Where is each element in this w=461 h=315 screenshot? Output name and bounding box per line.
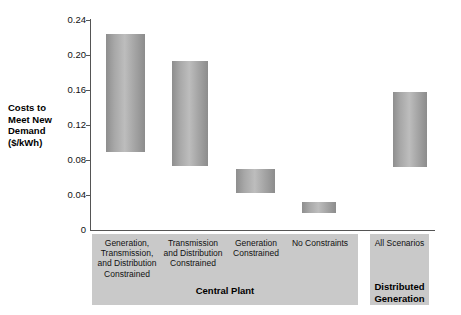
y-tick-mark-0.24: [86, 20, 91, 21]
group-title-central-plant: Central Plant: [92, 285, 358, 297]
x-axis-line: [90, 230, 435, 231]
y-tick-mark-0.04: [86, 195, 91, 196]
y-tick-label: 0: [48, 225, 86, 235]
group-title-line-2: Generation: [370, 293, 429, 305]
category-label-no-constraints: No Constraints: [288, 238, 352, 248]
cat-line-1: Generation: [225, 238, 287, 248]
y-tick-0.20: 0.20: [38, 50, 86, 60]
bar-no-constraints: [302, 202, 336, 213]
y-tick-0.24: 0.24: [38, 15, 86, 25]
cat-line-1: No Constraints: [288, 238, 352, 248]
cat-line-1: All Scenarios: [370, 238, 429, 248]
category-label-generation-transmission-distribution-constrained: Generation, Transmission, and Distributi…: [92, 238, 162, 279]
y-tick-label: 0.08: [48, 155, 86, 165]
y-tick-mark-0.20: [86, 55, 91, 56]
y-tick-label: 0.24: [48, 15, 86, 25]
bar-generation-constrained: [236, 169, 275, 193]
y-tick-label: 0.20: [48, 50, 86, 60]
cat-line-2: and Distribution: [158, 248, 228, 258]
y-tick-0.16: 0.16: [38, 85, 86, 95]
y-tick-label: 0.12: [48, 120, 86, 130]
cat-line-3: Constrained: [158, 258, 228, 268]
y-tick-label: 0.16: [48, 85, 86, 95]
y-axis-title-line-4: ($/kWh): [8, 137, 66, 149]
cat-line-4: Constrained: [92, 269, 162, 279]
y-tick-mark-0.08: [86, 160, 91, 161]
cat-line-2: Transmission,: [92, 248, 162, 258]
y-tick-0.04: 0.04: [38, 190, 86, 200]
y-tick-0.08: 0.08: [38, 155, 86, 165]
cat-line-2: Constrained: [225, 248, 287, 258]
cat-line-1: Transmission: [158, 238, 228, 248]
chart-container: Costs to Meet New Demand ($/kWh) 0.24 0.…: [0, 0, 461, 315]
y-axis-title-line-1: Costs to: [8, 102, 66, 114]
y-tick-0.12: 0.12: [38, 120, 86, 130]
y-tick-mark-0.16: [86, 90, 91, 91]
category-label-all-scenarios: All Scenarios: [370, 238, 429, 248]
cat-line-3: and Distribution: [92, 258, 162, 268]
y-tick-label: 0.04: [48, 190, 86, 200]
group-title-distributed-generation: Distributed Generation: [370, 281, 429, 304]
cat-line-1: Generation,: [92, 238, 162, 248]
bar-all-scenarios: [393, 92, 427, 167]
category-label-generation-constrained: Generation Constrained: [225, 238, 287, 258]
y-tick-0: 0: [38, 225, 86, 235]
category-label-transmission-and-distribution-constrained: Transmission and Distribution Constraine…: [158, 238, 228, 269]
group-title-line-1: Distributed: [370, 281, 429, 293]
bar-generation-transmission-distribution-constrained: [106, 34, 145, 152]
bar-transmission-and-distribution-constrained: [172, 61, 208, 166]
y-tick-mark-0.12: [86, 125, 91, 126]
